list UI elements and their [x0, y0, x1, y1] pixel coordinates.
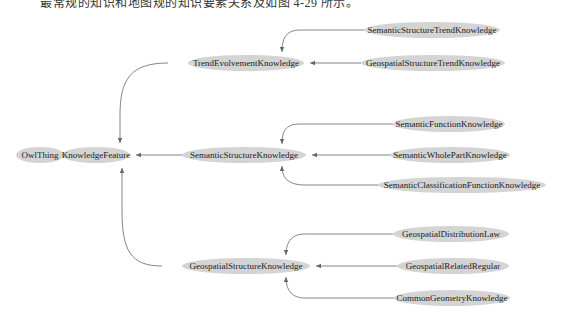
svg-text:SemanticStructureTrendKnowledg: SemanticStructureTrendKnowledge: [367, 25, 496, 35]
svg-text:TrendEvolvementKnowledge: TrendEvolvementKnowledge: [193, 58, 299, 68]
svg-text:GeospatialDistributionLaw: GeospatialDistributionLaw: [402, 229, 500, 239]
node-trendevolvementknowledge: TrendEvolvementKnowledge: [188, 55, 304, 71]
node-knowledgefeature: KnowledgeFeature: [62, 147, 130, 163]
edge-geospatialdistributionlaw-geospatialstructure: [286, 234, 393, 255]
svg-text:SemanticClassificationFunction: SemanticClassificationFunctionKnowledge: [384, 180, 540, 190]
node-commongeometryknowledge: CommonGeometryKnowledge: [394, 290, 510, 306]
edge-geospatialstructure-knowledgefeature: [122, 168, 162, 266]
edge-semanticfunction-semanticstructure: [282, 124, 393, 144]
svg-text:CommonGeometryKnowledge: CommonGeometryKnowledge: [397, 293, 508, 303]
node-geospatialstructureknowledge: GeospatialStructureKnowledge: [182, 258, 310, 274]
node-geospatialrelatedregular: GeospatialRelatedRegular: [397, 258, 509, 274]
edge-semanticstructuretrend-trendevolvement: [282, 30, 364, 52]
node-owlthing: OwlThing: [16, 147, 64, 163]
edge-trendevolvement-knowledgefeature: [120, 63, 168, 143]
edge-commongeometry-geospatialstructure: [286, 277, 394, 298]
edge-semanticclassificationfunction-semanticstructure: [282, 166, 378, 185]
svg-text:OwlThing: OwlThing: [22, 150, 59, 160]
svg-text:GeospatialStructureTrendKnowle: GeospatialStructureTrendKnowledge: [366, 58, 500, 68]
node-semanticstructureknowledge: SemanticStructureKnowledge: [182, 147, 306, 163]
node-geospatialdistributionlaw: GeospatialDistributionLaw: [393, 226, 509, 242]
svg-text:SemanticWholePartKnowledge: SemanticWholePartKnowledge: [393, 150, 506, 160]
svg-text:KnowledgeFeature: KnowledgeFeature: [62, 150, 130, 160]
svg-text:GeospatialRelatedRegular: GeospatialRelatedRegular: [406, 261, 500, 271]
node-semanticwholepartknowledge: SemanticWholePartKnowledge: [390, 147, 510, 163]
node-semanticstructuretrendknowledge: SemanticStructureTrendKnowledge: [364, 22, 500, 38]
svg-text:SemanticFunctionKnowledge: SemanticFunctionKnowledge: [396, 119, 503, 129]
svg-text:GeospatialStructureKnowledge: GeospatialStructureKnowledge: [190, 261, 303, 271]
svg-text:SemanticStructureKnowledge: SemanticStructureKnowledge: [190, 150, 298, 160]
ontology-diagram: OwlThing KnowledgeFeature TrendEvolvemen…: [0, 0, 564, 319]
node-semanticclassificationfunctionknowledge: SemanticClassificationFunctionKnowledge: [378, 177, 546, 193]
node-geospatialstructuretrendknowledge: GeospatialStructureTrendKnowledge: [361, 55, 505, 71]
node-semanticfunctionknowledge: SemanticFunctionKnowledge: [393, 116, 505, 132]
